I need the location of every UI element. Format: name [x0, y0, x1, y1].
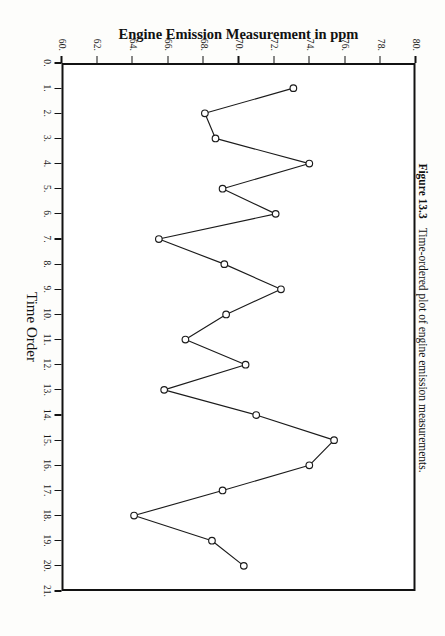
- series-line: [134, 88, 334, 566]
- figure-caption-label: Figure 13.3: [417, 163, 429, 218]
- x-tick-label: 8.: [41, 260, 51, 267]
- y-tick-mark: [344, 56, 345, 63]
- x-axis-title: Time Order: [22, 63, 39, 591]
- y-tick-mark: [308, 56, 309, 63]
- x-tick-label: 9.: [41, 286, 51, 293]
- data-point-marker: [208, 537, 215, 544]
- x-tick-label: 17.: [41, 484, 51, 496]
- data-point-marker: [155, 236, 162, 243]
- data-point-marker: [242, 361, 249, 368]
- data-point-marker: [290, 85, 297, 92]
- x-tick-label: 20.: [41, 560, 51, 572]
- x-tick-label: 4.: [41, 160, 51, 167]
- data-point-marker: [182, 336, 189, 343]
- x-tick-label: 5.: [41, 185, 51, 192]
- data-point-marker: [219, 185, 226, 192]
- x-tick-mark: [54, 314, 61, 315]
- y-tick-mark: [379, 56, 380, 63]
- data-point-marker: [330, 437, 337, 444]
- figure-stage: 0.1.2.3.4.5.6.7.8.9.10.11.12.13.14.15.16…: [0, 0, 445, 636]
- x-tick-mark: [54, 465, 61, 466]
- y-axis-title: Engine Emission Measurement in ppm: [61, 26, 415, 43]
- x-tick-mark: [54, 565, 61, 566]
- x-tick-mark: [54, 188, 61, 189]
- x-tick-label: 6.: [41, 210, 51, 217]
- data-point-marker: [277, 286, 284, 293]
- data-point-marker: [240, 563, 247, 570]
- x-tick-label: 1.: [41, 84, 51, 91]
- data-point-marker: [221, 261, 228, 268]
- x-tick-mark: [54, 138, 61, 139]
- y-tick-mark: [237, 56, 238, 63]
- x-tick-mark: [54, 113, 61, 114]
- figure-caption: Figure 13.3Time-ordered plot of engine e…: [409, 0, 437, 636]
- x-tick-label: 16.: [41, 459, 51, 471]
- y-tick-mark: [131, 56, 132, 63]
- x-tick-label: 15.: [41, 434, 51, 446]
- data-point-marker: [219, 487, 226, 494]
- x-tick-mark: [54, 213, 61, 214]
- x-tick-label: 2.: [41, 110, 51, 117]
- chart-canvas: 0.1.2.3.4.5.6.7.8.9.10.11.12.13.14.15.16…: [0, 0, 445, 636]
- x-tick-label: 14.: [41, 409, 51, 421]
- data-point-marker: [212, 135, 219, 142]
- x-tick-mark: [54, 490, 61, 491]
- y-tick-mark: [60, 56, 61, 63]
- x-tick-mark: [54, 364, 61, 365]
- y-tick-mark: [167, 56, 168, 63]
- y-tick-mark: [96, 56, 97, 63]
- data-point-marker: [222, 311, 229, 318]
- x-tick-label: 18.: [41, 509, 51, 521]
- x-tick-label: 19.: [41, 535, 51, 547]
- x-tick-mark: [54, 414, 61, 415]
- data-point-marker: [306, 462, 313, 469]
- x-tick-mark: [54, 590, 61, 591]
- x-tick-mark: [54, 389, 61, 390]
- y-tick-mark: [202, 56, 203, 63]
- x-tick-mark: [54, 238, 61, 239]
- x-tick-mark: [54, 88, 61, 89]
- x-tick-label: 12.: [41, 359, 51, 371]
- x-tick-mark: [54, 515, 61, 516]
- x-tick-label: 3.: [41, 135, 51, 142]
- data-point-marker: [252, 412, 259, 419]
- x-tick-mark: [54, 339, 61, 340]
- x-tick-mark: [54, 289, 61, 290]
- figure-caption-text: Time-ordered plot of engine emission mea…: [417, 228, 429, 473]
- data-point-marker: [160, 387, 167, 394]
- chart-rotated-wrapper: 0.1.2.3.4.5.6.7.8.9.10.11.12.13.14.15.16…: [0, 0, 445, 636]
- x-tick-label: 0.: [41, 59, 51, 66]
- data-point-marker: [272, 211, 279, 218]
- data-point-marker: [306, 160, 313, 167]
- x-tick-mark: [54, 440, 61, 441]
- x-tick-mark: [54, 163, 61, 164]
- x-tick-label: 10.: [41, 308, 51, 320]
- x-tick-label: 7.: [41, 235, 51, 242]
- x-tick-label: 11.: [41, 334, 51, 346]
- x-tick-mark: [54, 540, 61, 541]
- x-tick-label: 13.: [41, 384, 51, 396]
- data-point-marker: [130, 512, 137, 519]
- data-series-layer: [61, 63, 415, 591]
- x-tick-mark: [54, 264, 61, 265]
- data-point-marker: [201, 110, 208, 117]
- x-tick-label: 21.: [41, 585, 51, 597]
- y-tick-mark: [273, 56, 274, 63]
